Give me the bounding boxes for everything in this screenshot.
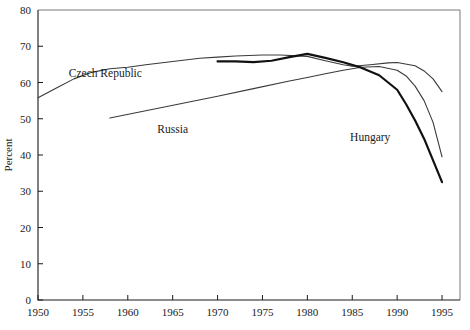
- x-tick-label: 1980: [296, 306, 319, 318]
- x-tick-label: 1975: [251, 306, 274, 318]
- y-tick-label: 40: [20, 149, 32, 161]
- series-label-czech-republic: Czech Republic: [69, 67, 142, 80]
- series-label-hungary: Hungary: [350, 131, 390, 144]
- y-axis-title: Percent: [2, 139, 14, 172]
- x-tick-label: 1955: [72, 306, 95, 318]
- y-axis-ticks: 01020304050607080: [20, 4, 43, 306]
- x-tick-label: 1965: [162, 306, 185, 318]
- series-line-russia: [110, 67, 442, 157]
- y-tick-label: 80: [20, 4, 32, 16]
- x-tick-label: 1985: [341, 306, 364, 318]
- y-tick-label: 10: [20, 258, 32, 270]
- series-label-russia: Russia: [157, 123, 188, 135]
- line-chart: 01020304050607080 1950195519601965197019…: [0, 0, 470, 330]
- x-tick-label: 1970: [207, 306, 230, 318]
- axis-lines: [38, 10, 460, 300]
- y-tick-label: 0: [26, 294, 32, 306]
- y-tick-label: 60: [20, 77, 32, 89]
- y-tick-label: 50: [20, 113, 32, 125]
- x-tick-label: 1995: [431, 306, 454, 318]
- x-tick-label: 1950: [27, 306, 50, 318]
- x-axis-ticks: 1950195519601965197019751980198519901995: [27, 295, 454, 318]
- chart-container: 01020304050607080 1950195519601965197019…: [0, 0, 470, 330]
- y-tick-label: 70: [20, 40, 32, 52]
- series-annotations: Czech RepublicRussiaHungary: [69, 67, 391, 143]
- y-tick-label: 30: [20, 185, 32, 197]
- y-tick-label: 20: [20, 222, 32, 234]
- x-tick-label: 1960: [117, 306, 140, 318]
- x-tick-label: 1990: [386, 306, 409, 318]
- axis-frame: [38, 10, 460, 300]
